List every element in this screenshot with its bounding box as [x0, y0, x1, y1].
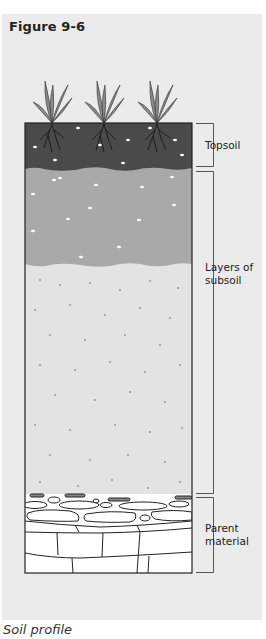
parent-material-label: Parent material	[205, 522, 249, 548]
figure-caption: Soil profile	[3, 622, 72, 637]
plants	[33, 81, 177, 123]
plant-icon	[138, 81, 177, 123]
topsoil-label: Topsoil	[205, 139, 240, 152]
subsoil-bracket	[196, 172, 214, 494]
brackets	[196, 124, 214, 573]
plant-icon	[85, 81, 124, 123]
subsoil-label: Layers of subsoil	[205, 261, 253, 287]
plant-icon	[33, 81, 72, 123]
